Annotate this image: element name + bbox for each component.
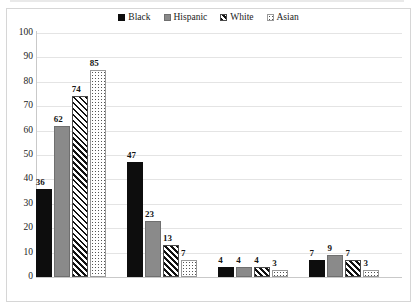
bar-wrapper: 4 [254, 33, 270, 277]
bar-wrapper: 62 [54, 33, 70, 277]
legend-swatch-solid-black-icon [118, 14, 125, 21]
bar-hispanic-cohabiting-parents[interactable] [327, 255, 343, 277]
bar-value-label: 9 [327, 244, 343, 253]
y-tick-label: 90 [7, 52, 33, 62]
bar-wrapper: 47 [127, 33, 143, 277]
y-tick-label: 20 [7, 223, 33, 233]
legend-label: Hispanic [174, 13, 208, 23]
y-tick-label: 30 [7, 199, 33, 209]
bar-wrapper: 3 [363, 33, 379, 277]
legend-item-hispanic[interactable]: Hispanic [164, 13, 208, 23]
legend-item-asian[interactable]: Asian [267, 13, 299, 23]
bar-white-solo-father[interactable] [254, 267, 270, 277]
bar-black-married-parents[interactable] [36, 189, 52, 277]
bar-asian-solo-mother[interactable] [181, 260, 197, 277]
bar-hispanic-solo-father[interactable] [236, 267, 252, 277]
bar-hispanic-solo-mother[interactable] [145, 221, 161, 277]
legend-label: Black [128, 13, 150, 23]
bar-group: 36627485 [37, 33, 128, 277]
bar-asian-married-parents[interactable] [90, 70, 106, 277]
bar-wrapper: 36 [36, 33, 52, 277]
bar-group: 4443 [220, 33, 311, 277]
bar-value-label: 62 [54, 115, 70, 124]
bar-value-label: 3 [363, 259, 379, 268]
bar-asian-cohabiting-parents[interactable] [363, 270, 379, 277]
plot-area: Married parents36627485Solo mother472313… [37, 33, 402, 277]
bar-wrapper: 7 [181, 33, 197, 277]
bar-group: 7973 [311, 33, 402, 277]
bar-wrapper: 4 [218, 33, 234, 277]
bar-wrapper: 13 [163, 33, 179, 277]
bar-value-label: 4 [236, 256, 252, 265]
bar-value-label: 4 [218, 256, 234, 265]
y-tick-label: 60 [7, 126, 33, 136]
bar-wrapper: 85 [90, 33, 106, 277]
bar-wrapper: 3 [272, 33, 288, 277]
legend-item-black[interactable]: Black [118, 13, 150, 23]
legend-swatch-hatch-icon [220, 14, 227, 21]
bar-value-label: 85 [90, 59, 106, 68]
y-tick-label: 50 [7, 150, 33, 160]
legend-label: White [230, 13, 253, 23]
chart-legend: BlackHispanicWhiteAsian [0, 13, 417, 23]
bar-value-label: 4 [254, 256, 270, 265]
bar-group: 4723137 [128, 33, 219, 277]
bar-white-solo-mother[interactable] [163, 245, 179, 277]
bar-black-cohabiting-parents[interactable] [309, 260, 325, 277]
y-tick-label: 40 [7, 174, 33, 184]
y-tick-label: 100 [7, 28, 33, 38]
bar-value-label: 47 [127, 151, 143, 160]
bar-value-label: 7 [345, 249, 361, 258]
bar-white-cohabiting-parents[interactable] [345, 260, 361, 277]
bar-value-label: 74 [72, 85, 88, 94]
y-axis-labels: 1009080706050403020100 [3, 33, 33, 277]
legend-swatch-solid-gray-icon [164, 14, 171, 21]
bar-wrapper: 23 [145, 33, 161, 277]
legend-swatch-dotted-icon [267, 14, 274, 21]
y-tick-label: 10 [7, 248, 33, 258]
bar-wrapper: 74 [72, 33, 88, 277]
bar-chart: BlackHispanicWhiteAsian 1009080706050403… [0, 0, 417, 308]
axis-baseline [37, 277, 402, 278]
y-tick-label: 70 [7, 101, 33, 111]
bar-hispanic-married-parents[interactable] [54, 126, 70, 277]
bar-black-solo-father[interactable] [218, 267, 234, 277]
bar-value-label: 3 [272, 259, 288, 268]
bar-value-label: 23 [145, 210, 161, 219]
bar-black-solo-mother[interactable] [127, 162, 143, 277]
y-tick-label: 80 [7, 77, 33, 87]
bar-asian-solo-father[interactable] [272, 270, 288, 277]
bar-value-label: 36 [36, 178, 52, 187]
bar-wrapper: 7 [345, 33, 361, 277]
bar-wrapper: 7 [309, 33, 325, 277]
top-edge-artifact [10, 0, 404, 2]
bar-value-label: 7 [309, 249, 325, 258]
y-tick-label: 0 [7, 272, 33, 282]
legend-label: Asian [277, 13, 299, 23]
bar-wrapper: 4 [236, 33, 252, 277]
legend-item-white[interactable]: White [220, 13, 253, 23]
bar-value-label: 7 [181, 249, 197, 258]
bar-wrapper: 9 [327, 33, 343, 277]
bar-white-married-parents[interactable] [72, 96, 88, 277]
bar-value-label: 13 [163, 234, 179, 243]
